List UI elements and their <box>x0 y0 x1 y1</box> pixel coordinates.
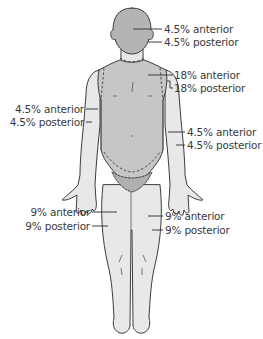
left-arm-anterior-label: 4.5% anterior <box>15 103 84 115</box>
torso <box>98 60 167 190</box>
left-arm-posterior-label: 4.5% posterior <box>10 116 84 128</box>
right-arm-anterior-label: 4.5% anterior <box>187 126 256 138</box>
left-arm <box>62 70 100 215</box>
left-leg-anterior-label: 9% anterior <box>31 206 90 218</box>
right-leg-anterior-label: 9% anterior <box>165 210 224 222</box>
left-leg-posterior-label: 9% posterior <box>25 220 90 232</box>
torso-anterior-label: 18% anterior <box>174 69 240 81</box>
torso-posterior-label: 18% posterior <box>174 82 245 94</box>
body-outline-figure <box>0 0 263 339</box>
legs <box>102 185 162 333</box>
head-posterior-label: 4.5% posterior <box>164 36 238 48</box>
head-anterior-label: 4.5% anterior <box>164 23 233 35</box>
right-leg-posterior-label: 9% posterior <box>165 224 230 236</box>
right-arm-posterior-label: 4.5% posterior <box>187 139 261 151</box>
head <box>111 8 154 54</box>
